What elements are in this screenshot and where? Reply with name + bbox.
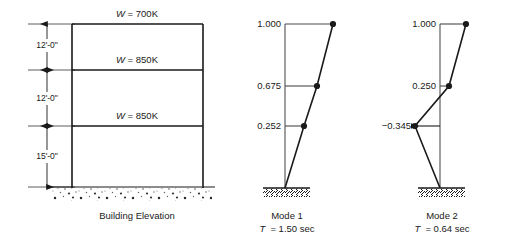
ground-soil-band xyxy=(46,187,215,201)
building-elevation-caption: Building Elevation xyxy=(99,210,175,221)
building-frame xyxy=(72,24,203,188)
mode-1-nodes xyxy=(301,21,336,129)
mode-1-node-roof xyxy=(330,21,336,27)
mode-2-caption: Mode 2 xyxy=(426,210,458,221)
mode-2-amplitude-level2: 0.250 xyxy=(412,80,436,91)
mode-2-panel: 1.000 0.250 −0.345 Mode 2 T = 0.64 sec xyxy=(382,18,470,234)
mode-1-amplitude-level1: 0.252 xyxy=(257,120,281,131)
mode-1-amplitude-roof: 1.000 xyxy=(257,18,281,29)
mode-1-caption: Mode 1 xyxy=(271,210,303,221)
mode-1-period: T = 1.50 sec xyxy=(259,223,314,234)
mode-1-panel: 1.000 0.675 0.252 Mode 1 T = 1.50 sec xyxy=(257,18,336,234)
mode-1-shape-curve xyxy=(285,24,333,188)
mode-1-node-level2 xyxy=(314,83,320,89)
mode-2-amplitude-roof: 1.000 xyxy=(412,18,436,29)
mode-2-level-leaders xyxy=(440,24,466,86)
story-height-label-first: 15'-0" xyxy=(36,151,58,161)
load-label-roof: W = 700K xyxy=(116,8,159,19)
mode-2-amplitude-level1: −0.345 xyxy=(382,120,411,131)
mode-1-fixed-support xyxy=(263,188,310,197)
mode-2-node-level2 xyxy=(446,83,452,89)
load-label-second: W = 850K xyxy=(116,110,159,121)
building-elevation-panel: 12'-0" 12'-0" 15'-0" W = 700K W = 850K xyxy=(24,8,215,221)
load-label-third: W = 850K xyxy=(116,54,159,65)
structural-mode-shape-figure: 12'-0" 12'-0" 15'-0" W = 700K W = 850K xyxy=(0,0,516,246)
story-height-label-third: 12'-0" xyxy=(36,40,58,50)
mode-2-period: T = 0.64 sec xyxy=(414,223,469,234)
mode-2-node-roof xyxy=(463,21,469,27)
mode-2-fixed-support xyxy=(418,188,465,197)
mode-1-amplitude-level2: 0.675 xyxy=(257,80,281,91)
mode-2-node-level1 xyxy=(412,123,418,129)
mode-1-node-level1 xyxy=(301,123,307,129)
story-height-label-second: 12'-0" xyxy=(36,93,58,103)
